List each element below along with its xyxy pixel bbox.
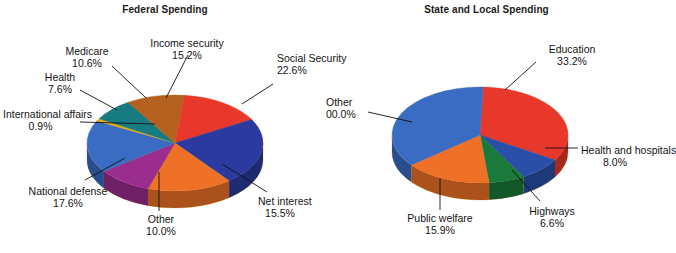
chart-title-state-and-local-spending: State and Local Spending [320,4,653,15]
callout-label: Health and hospitals [581,144,676,156]
callout-percentage: 00.0% [326,109,370,121]
callout-federal-income-security: Income security15.2% [139,38,235,62]
callout-federal-social-security: Social Security22.6% [277,53,325,77]
callout-percentage: 15.5% [258,208,302,220]
callout-state-highways: Highways6.6% [524,206,580,230]
callout-label: Health [45,71,75,83]
callout-federal-other: Other10.0% [139,214,183,238]
callout-percentage: 7.6% [35,84,85,96]
callout-state-other: Other00.0% [326,97,370,121]
callout-percentage: 0.9% [3,121,78,133]
callout-percentage: 33.2% [539,56,605,68]
callout-federal-health: Health7.6% [35,72,85,96]
callout-percentage: 15.9% [400,225,480,237]
callout-federal-net-interest: Net interest15.5% [258,196,302,220]
callout-percentage: 17.6% [22,198,114,210]
callout-percentage: 15.2% [139,50,235,62]
callout-state-education: Education33.2% [539,44,605,68]
callout-percentage: 10.0% [139,226,183,238]
callout-label: Other [148,213,174,225]
callout-label: Other [326,96,352,108]
pie-chart-state-and-local-spending [386,81,574,206]
callout-label: National defense [29,185,108,197]
callout-label: Medicare [65,45,108,57]
callout-label: Education [549,43,596,55]
callout-percentage: 22.6% [277,65,325,77]
callout-percentage: 8.0% [581,157,649,169]
callout-label: International affairs [3,108,92,120]
chart-title-federal-spending: Federal Spending [0,4,330,15]
callout-label: Public welfare [407,212,472,224]
callout-percentage: 10.6% [56,58,118,70]
callout-federal-medicare: Medicare10.6% [56,46,118,70]
callout-label: Net interest [258,195,312,207]
callout-state-health-and-hospitals: Health and hospitals8.0% [581,145,649,169]
callout-federal-national-defense: National defense17.6% [22,186,114,210]
callout-label: Income security [150,37,224,49]
callout-percentage: 6.6% [524,218,580,230]
callout-state-public-welfare: Public welfare15.9% [400,213,480,237]
callout-federal-international-affairs: International affairs0.9% [3,109,78,133]
callout-label: Highways [529,205,575,217]
callout-label: Social Security [277,52,346,64]
